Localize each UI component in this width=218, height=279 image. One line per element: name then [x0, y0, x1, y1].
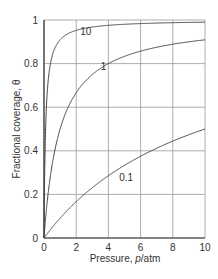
curves [44, 22, 205, 238]
x-tick-label: 6 [138, 242, 144, 253]
y-tick-label: 0.6 [24, 102, 38, 113]
y-tick-label: 0 [32, 233, 38, 244]
x-tick-label: 0 [41, 242, 47, 253]
y-tick-label: 0.2 [24, 189, 38, 200]
langmuir-isotherm-chart: 024681000.20.40.60.81 1010.1 Pressure, p… [0, 0, 218, 279]
curve-labels: 1010.1 [80, 26, 133, 183]
curve-label: 0.1 [119, 172, 133, 183]
x-tick-label: 8 [170, 242, 176, 253]
x-tick-label: 4 [106, 242, 112, 253]
y-axis-label: Fractional coverage, θ [11, 79, 22, 178]
x-axis-label: Pressure, p/atm [90, 253, 161, 264]
grid [44, 20, 205, 238]
y-tick-label: 0.4 [24, 145, 38, 156]
x-tick-label: 10 [199, 242, 211, 253]
curve-label: 10 [80, 26, 92, 37]
curve-K-1 [44, 40, 205, 238]
tick-labels: 024681000.20.40.60.81 [24, 15, 211, 254]
y-tick-label: 1 [32, 15, 38, 26]
y-tick-label: 0.8 [24, 58, 38, 69]
curve-K-10 [44, 22, 205, 238]
x-tick-label: 2 [73, 242, 79, 253]
curve-label: 1 [101, 61, 107, 72]
curve-K-0.1 [44, 129, 205, 238]
